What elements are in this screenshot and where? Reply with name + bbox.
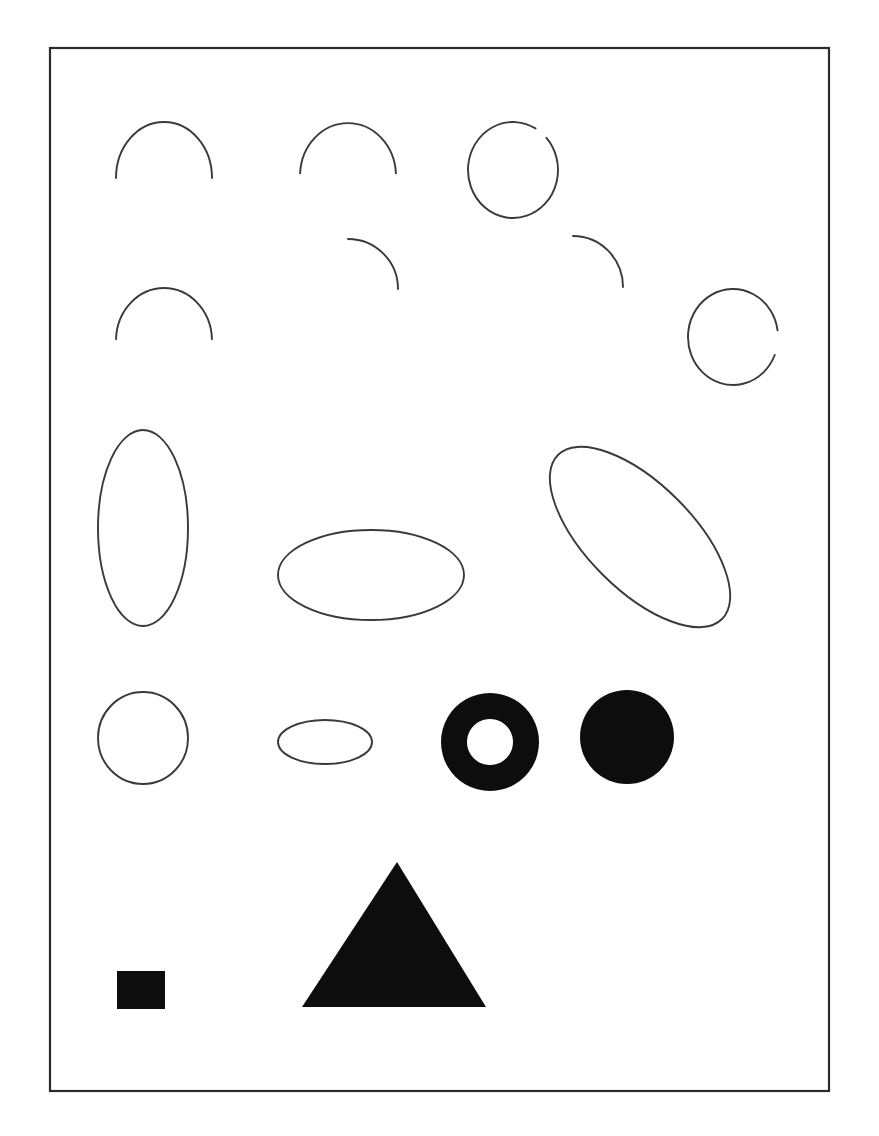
c-shape-arc-1 bbox=[468, 122, 558, 218]
tall-vertical-ellipse bbox=[98, 430, 188, 626]
quarter-arc-1 bbox=[348, 239, 398, 289]
filled-disk bbox=[580, 690, 674, 784]
semicircle-arc-3 bbox=[116, 288, 212, 339]
c-shape-arc-2 bbox=[688, 289, 778, 385]
wide-horizontal-ellipse bbox=[278, 530, 464, 620]
figure-page bbox=[0, 0, 879, 1136]
small-flat-ellipse bbox=[278, 720, 372, 764]
quarter-arc-2 bbox=[573, 236, 623, 287]
semicircle-arc-1 bbox=[116, 122, 212, 178]
circle-outline bbox=[98, 692, 188, 784]
filled-ring bbox=[441, 693, 539, 791]
semicircle-arc-2 bbox=[300, 123, 396, 173]
shapes-canvas bbox=[0, 0, 879, 1136]
filled-square bbox=[117, 971, 165, 1009]
filled-triangle bbox=[302, 862, 486, 1007]
tilted-ellipse bbox=[520, 417, 759, 656]
